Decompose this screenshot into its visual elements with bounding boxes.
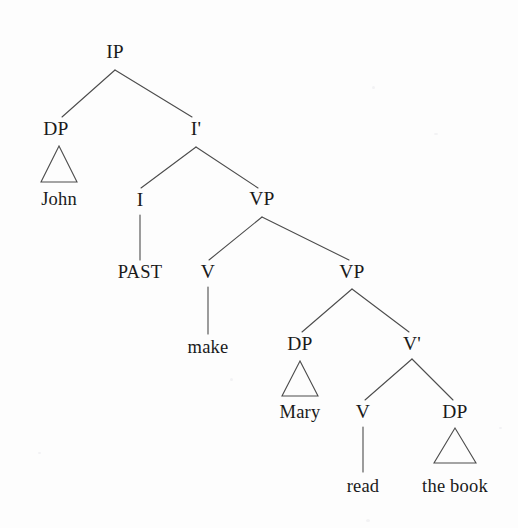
node-read: read xyxy=(347,477,380,496)
tri-thebook-icon xyxy=(434,428,476,463)
node-thebook: the book xyxy=(422,477,488,496)
branch-ip-to-ibar xyxy=(115,70,192,117)
node-i: I xyxy=(137,190,144,210)
branch-vp1-to-vp2 xyxy=(262,217,349,260)
branch-vp2-to-vbar xyxy=(352,289,409,332)
branch-vp2-to-dp2 xyxy=(302,289,352,332)
syntax-tree-diagram: IPDPI'JohnIVPPASTVVPmakeDPV'MaryVDPreadt… xyxy=(0,0,518,528)
node-v1: V xyxy=(201,262,215,282)
node-john: John xyxy=(41,190,77,209)
branch-ip-to-dp1 xyxy=(62,70,115,117)
tri-mary-icon xyxy=(282,361,318,396)
node-dp2: DP xyxy=(287,334,312,354)
branch-vbar-to-v2 xyxy=(365,359,412,400)
node-dp1: DP xyxy=(43,119,68,139)
node-v2: V xyxy=(356,402,370,422)
branch-ibar-to-i xyxy=(141,147,196,188)
branch-vp1-to-v1 xyxy=(209,217,262,260)
tree-branches-layer xyxy=(0,0,518,528)
node-past: PAST xyxy=(118,263,162,282)
node-vbar: V' xyxy=(403,334,421,354)
node-vp2: VP xyxy=(339,262,364,282)
node-mary: Mary xyxy=(280,403,321,422)
branch-vbar-to-dp3 xyxy=(412,359,453,400)
node-ibar: I' xyxy=(191,119,201,139)
node-make: make xyxy=(188,338,229,357)
node-dp3: DP xyxy=(442,402,467,422)
node-vp1: VP xyxy=(249,189,274,209)
tri-john-icon xyxy=(41,146,77,182)
branch-ibar-to-vp1 xyxy=(196,147,258,188)
node-ip: IP xyxy=(106,42,124,62)
